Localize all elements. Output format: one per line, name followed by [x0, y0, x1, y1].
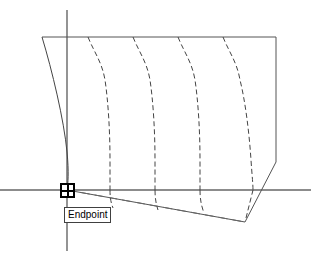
dashed-profile-curve-tail-3: [200, 190, 204, 213]
dashed-profile-curve-tail-1: [110, 190, 113, 208]
dashed-profile-curve-1: [88, 37, 110, 190]
cad-canvas[interactable]: [0, 0, 311, 258]
right-lower-edge-line: [245, 162, 276, 222]
cad-drawing-window: Endpoint: [0, 0, 311, 258]
dashed-profile-curve-tail-2: [155, 190, 158, 210]
solid-profile-curve: [42, 37, 68, 190]
endpoint-snap-tooltip: Endpoint: [64, 207, 111, 223]
dashed-profile-curve-3: [178, 37, 200, 190]
snap-marker-crosshair-horizontal: [62, 190, 73, 192]
endpoint-snap-marker[interactable]: [60, 183, 75, 198]
dashed-profile-curve-4: [223, 37, 253, 190]
dashed-profile-curve-2: [133, 37, 155, 190]
